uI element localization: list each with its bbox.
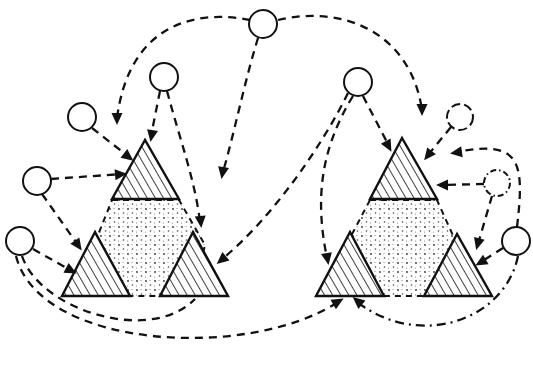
circle-node-left-n1 [150,63,178,91]
dashed-arrow-rn1-to-left-br [221,93,348,260]
circle-node-left-n2 [68,103,96,131]
arrowhead-icon [417,104,428,116]
arrowhead-icon [471,237,485,251]
circle-node-left-n4 [6,227,34,255]
right-cluster [316,138,492,296]
arrowhead-icon [195,216,207,229]
arrowhead-icon [216,166,229,180]
dashed-arrow-ln3-to-left-bl [42,194,78,245]
dashed-arrow-rn3-to-right-br [478,196,492,244]
dashed-arrow-ln2-to-left-top [92,128,129,157]
circle-node-left-n3 [23,167,51,195]
nodes-layer [6,10,530,255]
circle-node-right-n2 [447,104,473,130]
dashed-arrow-top-to-center-gap [223,38,258,172]
dashed-arrow-rn1-to-right-top [363,96,389,146]
arrowhead-icon [449,146,462,159]
dashed-arrow-ln3-to-left-top [51,174,122,179]
circle-node-top-center [249,10,277,38]
hatched-triangle-right-top [370,138,437,199]
arrowhead-icon [436,180,448,191]
circle-node-right-n1 [344,68,372,96]
dashed-arrow-rn2-to-right-top [428,127,451,155]
circle-node-right-n3 [484,170,510,196]
dashed-arrow-top-to-left-top [117,17,250,118]
circle-node-right-n4 [502,227,530,255]
arrowhead-icon [145,129,158,143]
clusters-layer [62,138,492,296]
arrowhead-icon [112,113,123,125]
dashed-arrow-top-to-right-top [278,16,422,110]
diagram-canvas [0,0,533,365]
hatched-triangle-left-top [112,140,179,199]
dashed-arrow-ln1-to-left-top [151,91,160,136]
